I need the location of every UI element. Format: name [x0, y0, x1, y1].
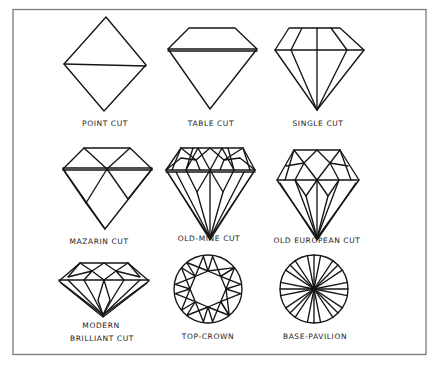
base-pavilion-label: BASE-PAVILION	[283, 331, 347, 343]
single-cut-label: SINGLE CUT	[292, 118, 343, 130]
old-mine-cut-drawing	[166, 148, 255, 240]
old-european-cut-drawing	[277, 150, 359, 240]
old-european-cut-label: OLD EUROPEAN CUT	[274, 235, 361, 247]
mazarin-cut-drawing	[63, 148, 152, 229]
table-cut-label: TABLE CUT	[188, 118, 234, 130]
point-cut-label: POINT CUT	[82, 118, 128, 130]
modern-brilliant-cut-drawing	[59, 263, 149, 317]
top-crown-label: TOP-CROWN	[182, 331, 234, 343]
modern-brilliant-label-line2: BRILLIANT CUT	[70, 333, 134, 345]
mazarin-cut-label: MAZARIN CUT	[69, 236, 128, 248]
diamond-cuts-diagram: POINT CUT TABLE CUT SINGLE CUT MAZARIN C…	[0, 0, 438, 365]
base-pavilion-drawing	[280, 255, 348, 323]
table-cut-drawing	[168, 28, 257, 109]
modern-brilliant-label-line1: MODERN	[82, 320, 119, 332]
point-cut-drawing	[64, 17, 146, 111]
single-cut-drawing	[275, 28, 364, 110]
old-mine-cut-label: OLD-MINE CUT	[178, 233, 241, 245]
top-crown-drawing	[174, 255, 242, 323]
